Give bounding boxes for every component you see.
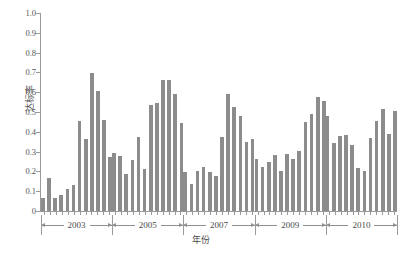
- year-band-separator: [183, 215, 184, 235]
- bar[interactable]: [173, 94, 177, 211]
- bar[interactable]: [59, 195, 63, 211]
- bar[interactable]: [167, 80, 171, 211]
- bar[interactable]: [239, 116, 243, 211]
- x-axis-year-band: 20032005200720092010: [40, 215, 397, 235]
- year-band-separator: [326, 215, 327, 235]
- y-tick-label: 0.7: [8, 68, 36, 76]
- bar[interactable]: [131, 160, 135, 211]
- bar[interactable]: [387, 134, 391, 211]
- bar[interactable]: [356, 168, 360, 211]
- bar[interactable]: [279, 171, 283, 211]
- bar[interactable]: [350, 145, 354, 211]
- bar[interactable]: [208, 172, 212, 211]
- y-tick-mark: [36, 33, 40, 34]
- bar[interactable]: [285, 154, 289, 211]
- bar-group: [41, 13, 112, 211]
- bar[interactable]: [155, 103, 159, 211]
- bar[interactable]: [190, 184, 194, 211]
- bar[interactable]: [183, 172, 187, 211]
- bar[interactable]: [310, 114, 314, 211]
- bar[interactable]: [124, 174, 128, 211]
- bar-group: [255, 13, 326, 211]
- y-tick-mark: [36, 112, 40, 113]
- y-tick-label: 0.6: [8, 88, 36, 96]
- bar[interactable]: [381, 109, 385, 211]
- bar[interactable]: [291, 159, 295, 211]
- bar[interactable]: [338, 136, 342, 211]
- bar[interactable]: [149, 105, 153, 211]
- bar[interactable]: [72, 185, 76, 211]
- bar[interactable]: [326, 116, 330, 211]
- bar[interactable]: [297, 151, 301, 211]
- bar[interactable]: [232, 107, 236, 211]
- y-tick-mark: [36, 171, 40, 172]
- y-tick-label: 0.4: [8, 128, 36, 136]
- bar[interactable]: [41, 198, 45, 211]
- bar[interactable]: [369, 138, 373, 211]
- y-tick-mark: [36, 72, 40, 73]
- year-band-cell: 2010: [326, 215, 397, 235]
- bar[interactable]: [261, 167, 265, 211]
- bar[interactable]: [137, 137, 141, 211]
- bar[interactable]: [78, 121, 82, 211]
- year-label: 2009: [277, 215, 303, 235]
- bar[interactable]: [102, 120, 106, 211]
- bar[interactable]: [220, 137, 224, 211]
- bar-group: [326, 13, 397, 211]
- bar[interactable]: [112, 153, 116, 211]
- bar[interactable]: [47, 178, 51, 211]
- bar[interactable]: [245, 142, 249, 211]
- y-tick-label: 0.8: [8, 49, 36, 57]
- bar[interactable]: [332, 143, 336, 211]
- arrow-left-icon: [326, 225, 349, 226]
- arrow-right-icon: [90, 225, 113, 226]
- y-tick-label: 0.5: [8, 108, 36, 116]
- chart-figure: 达标率 1.00.90.80.70.60.50.40.30.20.10 2003…: [0, 0, 401, 255]
- bar-group: [183, 13, 254, 211]
- bar[interactable]: [375, 121, 379, 211]
- bar[interactable]: [96, 91, 100, 211]
- arrow-right-icon: [303, 225, 326, 226]
- bar[interactable]: [53, 198, 57, 211]
- y-tick-mark: [36, 191, 40, 192]
- arrow-left-icon: [112, 225, 135, 226]
- bar[interactable]: [255, 159, 259, 211]
- bar[interactable]: [267, 162, 271, 212]
- arrow-left-icon: [183, 225, 206, 226]
- year-band-separator: [255, 215, 256, 235]
- plot-area: [41, 13, 397, 211]
- bar[interactable]: [316, 97, 320, 211]
- arrow-left-icon: [41, 225, 64, 226]
- year-band-cell: 2003: [41, 215, 112, 235]
- bar[interactable]: [344, 135, 348, 211]
- arrow-right-icon: [161, 225, 184, 226]
- y-tick-mark: [36, 13, 40, 14]
- bar[interactable]: [118, 156, 122, 211]
- year-band-separator: [112, 215, 113, 235]
- bar[interactable]: [196, 171, 200, 211]
- year-label: 2010: [348, 215, 374, 235]
- y-tick-label: 1.0: [8, 9, 36, 17]
- bar[interactable]: [304, 122, 308, 211]
- arrow-left-icon: [255, 225, 278, 226]
- bar[interactable]: [84, 139, 88, 211]
- bar[interactable]: [393, 111, 397, 211]
- bar[interactable]: [143, 169, 147, 211]
- bar[interactable]: [273, 155, 277, 211]
- year-label: 2003: [64, 215, 90, 235]
- y-tick-mark: [36, 132, 40, 133]
- bar[interactable]: [226, 94, 230, 211]
- bar[interactable]: [66, 189, 70, 211]
- x-axis-label: 年份: [0, 233, 401, 246]
- year-band-separator: [41, 215, 42, 235]
- year-label: 2005: [135, 215, 161, 235]
- bar[interactable]: [161, 80, 165, 211]
- year-label: 2007: [206, 215, 232, 235]
- y-tick-label: 0.9: [8, 29, 36, 37]
- bar[interactable]: [363, 171, 367, 211]
- bar[interactable]: [90, 73, 94, 211]
- y-tick-mark: [36, 92, 40, 93]
- bar[interactable]: [214, 176, 218, 211]
- y-tick-mark: [36, 211, 40, 212]
- bar[interactable]: [202, 167, 206, 211]
